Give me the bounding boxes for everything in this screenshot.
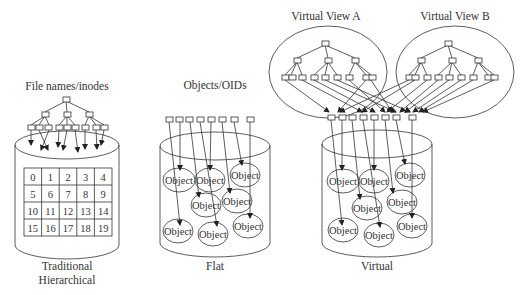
grid-cell: 16 xyxy=(45,223,56,234)
object-label: Object xyxy=(329,225,357,236)
object-label: Object xyxy=(388,197,416,208)
grid-cell: 3 xyxy=(83,172,88,183)
virtual-view-a-label: Virtual View A xyxy=(276,9,376,23)
object-label: Object xyxy=(396,170,424,181)
traditional-bottom-label-line1: Traditional xyxy=(17,259,117,273)
object-label: Object xyxy=(360,176,388,187)
virtual-object-labels: Object Object Object Object Object Objec… xyxy=(329,170,426,241)
grid-cell: 8 xyxy=(83,189,88,200)
object-label: Object xyxy=(196,175,224,186)
grid-cell: 1 xyxy=(48,172,53,183)
flat-bottom-label: Flat xyxy=(165,259,265,273)
virtual-view-a-links xyxy=(285,80,410,112)
object-label: Object xyxy=(231,170,259,181)
grid-cell: 13 xyxy=(80,206,91,217)
traditional-bottom-label-line2: Hierarchical xyxy=(17,273,117,287)
grid-cell: 4 xyxy=(101,172,107,183)
object-label: Object xyxy=(223,196,251,207)
virtual-view-a-ellipse xyxy=(269,26,387,118)
grid-cell: 10 xyxy=(28,206,39,217)
grid-cell: 14 xyxy=(98,206,109,217)
object-label: Object xyxy=(398,221,426,232)
grid-cell: 9 xyxy=(101,189,106,200)
object-label: Object xyxy=(353,203,381,214)
grid-cell: 12 xyxy=(63,206,74,217)
grid-cell: 17 xyxy=(63,223,74,234)
grid-cell: 2 xyxy=(65,172,70,183)
object-label: Object xyxy=(192,200,220,211)
object-label: Object xyxy=(365,230,393,241)
grid-cell: 5 xyxy=(30,189,35,200)
virtual-view-a-tree xyxy=(282,41,376,80)
grid-cell: 19 xyxy=(98,223,109,234)
virtual-view-b-label: Virtual View B xyxy=(405,9,505,23)
grid-cell: 7 xyxy=(65,189,70,200)
object-label: Object xyxy=(199,229,227,240)
grid-cell: 15 xyxy=(28,223,39,234)
virtual-view-b-ellipse xyxy=(396,26,514,118)
object-label: Object xyxy=(329,176,357,187)
virtual-view-b-tree xyxy=(406,41,498,80)
storage-models-diagram: 0 1 2 3 4 5 6 7 8 9 10 11 12 13 14 15 16… xyxy=(0,0,529,295)
grid-cell: 18 xyxy=(80,223,91,234)
grid-cell: 6 xyxy=(48,189,53,200)
object-label: Object xyxy=(234,221,262,232)
flat-object-labels: Object Object Object Object Object Objec… xyxy=(164,170,262,240)
object-label: Object xyxy=(165,175,193,186)
grid-cell: 11 xyxy=(45,206,55,217)
virtual-panel xyxy=(269,26,514,257)
flat-oid-row xyxy=(166,117,254,122)
object-label: Object xyxy=(164,226,192,237)
virtual-oid-row xyxy=(328,115,416,120)
grid-cell: 0 xyxy=(30,172,35,183)
flat-top-label: Objects/OIDs xyxy=(165,78,265,92)
traditional-top-label: File names/inodes xyxy=(17,79,117,93)
virtual-bottom-label: Virtual xyxy=(327,259,427,273)
